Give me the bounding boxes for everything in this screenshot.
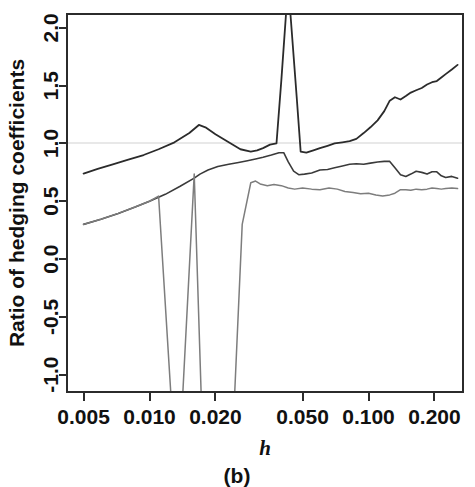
y-tick-label: 2.0 bbox=[39, 13, 62, 42]
figure-panel-b: -1.0-0.50.00.51.01.52.0 0.0050.0100.0200… bbox=[0, 0, 475, 487]
y-tick-label: -1.0 bbox=[39, 357, 62, 393]
panel-caption: (b) bbox=[224, 464, 251, 487]
y-tick-label: 1.5 bbox=[39, 71, 62, 101]
x-tick-label: 0.100 bbox=[342, 405, 395, 428]
x-axis-title: h bbox=[259, 436, 271, 460]
y-tick-label: 0.5 bbox=[39, 186, 62, 216]
x-tick-label: 0.050 bbox=[276, 405, 329, 428]
y-axis-title: Ratio of hedging coefficients bbox=[5, 59, 28, 347]
x-tick-label: 0.005 bbox=[57, 405, 110, 428]
y-tick-label: 1.0 bbox=[39, 129, 62, 158]
x-tick-label: 0.020 bbox=[189, 405, 242, 428]
x-tick-label: 0.200 bbox=[408, 405, 461, 428]
y-tick-label: -0.5 bbox=[39, 298, 62, 335]
y-tick-label: 0.0 bbox=[39, 244, 62, 273]
ratio-of-hedging-coefficients-chart: -1.0-0.50.00.51.01.52.0 0.0050.0100.0200… bbox=[0, 0, 475, 487]
x-tick-label: 0.010 bbox=[123, 405, 176, 428]
